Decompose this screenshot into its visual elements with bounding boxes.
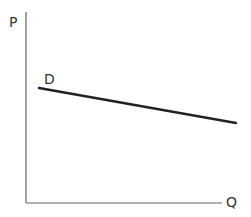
demand-curve (39, 88, 236, 123)
y-axis-label: P (9, 14, 17, 30)
demand-diagram: P Q D (0, 0, 251, 217)
demand-curve-label: D (44, 71, 55, 87)
x-axis-label: Q (226, 194, 237, 210)
